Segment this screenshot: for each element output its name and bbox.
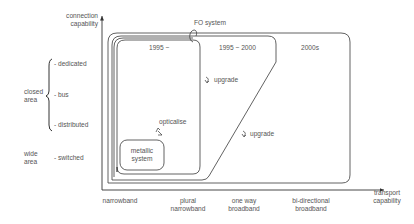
- era-1995-label: 1995 ~: [149, 44, 169, 52]
- fo-system-label: FO system: [194, 19, 226, 27]
- x-category-plural-narrowband: plural narrowband: [163, 197, 213, 213]
- upgrade-label-1: upgrade: [214, 76, 238, 84]
- opticalise-arrow-icon: [156, 128, 162, 135]
- era-2000s-label: 2000s: [301, 44, 319, 52]
- diagram-canvas: [0, 0, 414, 224]
- y-category-distributed: - distributed: [54, 121, 88, 129]
- era-1995-2000-label: 1995 ~ 2000: [219, 44, 256, 52]
- x-category-bi-directional-broadband: bi-directional broadband: [281, 197, 341, 213]
- y-category-bus: - bus: [54, 91, 69, 99]
- x-axis-label: transport capability: [367, 189, 407, 205]
- upgrade-label-2: upgrade: [250, 130, 274, 138]
- closed-area-label: closed area: [24, 88, 43, 104]
- upgrade-arrow-icon-1: [205, 77, 209, 83]
- closed-area-brace: [46, 59, 52, 131]
- y-category-dedicated: - dedicated: [54, 60, 87, 68]
- opticalise-label: opticalise: [159, 118, 187, 126]
- y-category-switched: - switched: [54, 154, 84, 162]
- wide-area-label: wide area: [24, 150, 38, 166]
- x-category-narrowband: narrowband: [95, 197, 145, 205]
- x-category-one-way-broadband: one way broadband: [219, 197, 269, 213]
- upgrade-arrow-icon-2: [242, 131, 246, 137]
- y-axis-label: connection capability: [58, 12, 98, 28]
- metallic-system-label: metallic system: [120, 147, 164, 163]
